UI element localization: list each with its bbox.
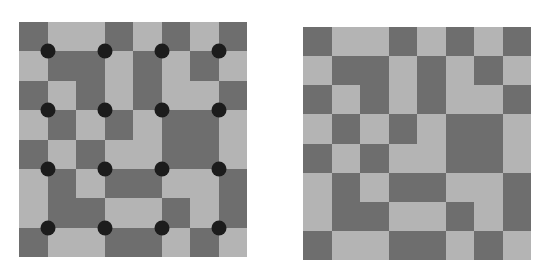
- dark-cell: [503, 85, 532, 114]
- light-cell: [389, 56, 418, 85]
- light-cell: [303, 202, 332, 231]
- light-cell: [389, 85, 418, 114]
- light-cell: [503, 231, 532, 260]
- dark-cell: [76, 140, 105, 169]
- dark-cell: [303, 144, 332, 173]
- light-cell: [76, 22, 105, 51]
- dark-cell: [105, 22, 134, 51]
- dark-cell: [417, 56, 446, 85]
- light-cell: [503, 144, 532, 173]
- dark-cell: [19, 22, 48, 51]
- light-cell: [133, 198, 162, 227]
- light-cell: [303, 173, 332, 202]
- light-cell: [190, 169, 219, 198]
- dark-cell: [19, 140, 48, 169]
- dark-cell: [162, 140, 191, 169]
- light-cell: [19, 110, 48, 139]
- light-cell: [503, 114, 532, 143]
- dark-cell: [503, 27, 532, 56]
- light-cell: [76, 169, 105, 198]
- dark-cell: [133, 51, 162, 80]
- dark-cell: [219, 81, 248, 110]
- dark-cell: [389, 231, 418, 260]
- dark-cell: [133, 169, 162, 198]
- light-cell: [190, 198, 219, 227]
- light-cell: [190, 81, 219, 110]
- dark-cell: [190, 110, 219, 139]
- light-cell: [446, 56, 475, 85]
- light-cell: [76, 110, 105, 139]
- light-cell: [105, 81, 134, 110]
- left-pattern-grid: [19, 22, 247, 257]
- light-cell: [48, 22, 77, 51]
- dark-cell: [332, 202, 361, 231]
- dark-cell: [303, 27, 332, 56]
- light-cell: [48, 140, 77, 169]
- dark-cell: [105, 228, 134, 257]
- dark-cell: [474, 114, 503, 143]
- light-cell: [389, 144, 418, 173]
- light-cell: [133, 110, 162, 139]
- dark-cell: [48, 51, 77, 80]
- light-cell: [332, 144, 361, 173]
- light-cell: [219, 51, 248, 80]
- dark-cell: [446, 27, 475, 56]
- dark-cell: [19, 228, 48, 257]
- dark-cell: [332, 114, 361, 143]
- light-cell: [360, 231, 389, 260]
- light-cell: [105, 198, 134, 227]
- light-cell: [19, 51, 48, 80]
- light-cell: [303, 56, 332, 85]
- dark-cell: [48, 110, 77, 139]
- dark-cell: [219, 198, 248, 227]
- dark-cell: [417, 173, 446, 202]
- light-cell: [360, 173, 389, 202]
- dark-cell: [105, 169, 134, 198]
- light-cell: [474, 202, 503, 231]
- dark-cell: [332, 173, 361, 202]
- dark-cell: [162, 110, 191, 139]
- dark-cell: [190, 51, 219, 80]
- light-cell: [19, 198, 48, 227]
- light-cell: [389, 202, 418, 231]
- dark-cell: [219, 22, 248, 51]
- dark-cell: [417, 85, 446, 114]
- dark-cell: [133, 228, 162, 257]
- light-cell: [503, 56, 532, 85]
- light-cell: [190, 22, 219, 51]
- light-cell: [417, 144, 446, 173]
- light-cell: [219, 110, 248, 139]
- light-cell: [133, 140, 162, 169]
- light-cell: [417, 27, 446, 56]
- dark-cell: [503, 173, 532, 202]
- light-cell: [219, 140, 248, 169]
- light-cell: [19, 169, 48, 198]
- light-cell: [162, 51, 191, 80]
- dark-cell: [162, 22, 191, 51]
- light-cell: [105, 140, 134, 169]
- dark-cell: [474, 56, 503, 85]
- dark-cell: [389, 173, 418, 202]
- dark-cell: [332, 56, 361, 85]
- dark-cell: [474, 231, 503, 260]
- light-cell: [219, 228, 248, 257]
- dark-cell: [48, 198, 77, 227]
- light-cell: [474, 173, 503, 202]
- light-cell: [162, 228, 191, 257]
- dark-cell: [76, 198, 105, 227]
- dark-cell: [360, 85, 389, 114]
- light-cell: [417, 202, 446, 231]
- dark-cell: [303, 85, 332, 114]
- dark-cell: [389, 27, 418, 56]
- dark-cell: [105, 110, 134, 139]
- light-cell: [332, 85, 361, 114]
- light-cell: [48, 81, 77, 110]
- light-cell: [48, 228, 77, 257]
- dark-cell: [360, 56, 389, 85]
- dark-cell: [360, 202, 389, 231]
- dark-cell: [190, 140, 219, 169]
- light-cell: [360, 27, 389, 56]
- dark-cell: [474, 144, 503, 173]
- dark-cell: [48, 169, 77, 198]
- dark-cell: [162, 198, 191, 227]
